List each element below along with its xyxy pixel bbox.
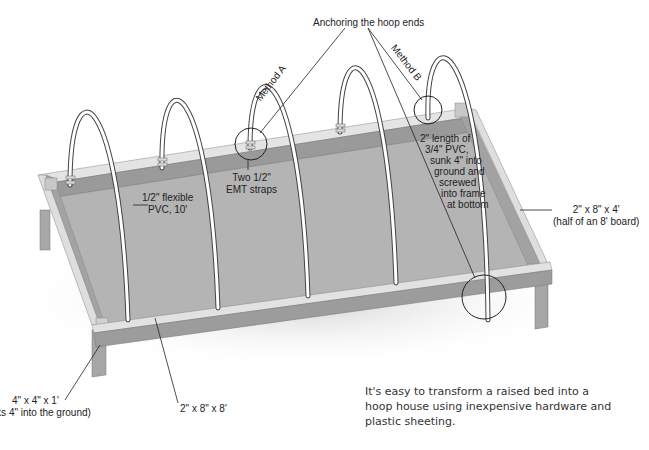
pvc-sleeve-label: 2" length of 3/4" PVC, sunk 4" into grou… xyxy=(420,133,489,210)
emt-straps-label: Two 1/2" EMT straps xyxy=(226,172,277,196)
diagram-title: Anchoring the hoop ends xyxy=(313,17,424,29)
end-board-label: 2" x 8" x 4' (half of an 8' board) xyxy=(553,204,639,228)
side-board-label: 2" x 8" x 8' xyxy=(180,403,227,415)
figure-caption: It's easy to transform a raised bed into… xyxy=(365,384,615,429)
hoop-house-diagram xyxy=(0,0,649,450)
pvc-hoop-label: 1/2" flexible PVC, 10' xyxy=(142,192,193,216)
post-label: 4" x 4" x 1' (sinks 4" into the ground) xyxy=(0,395,91,419)
